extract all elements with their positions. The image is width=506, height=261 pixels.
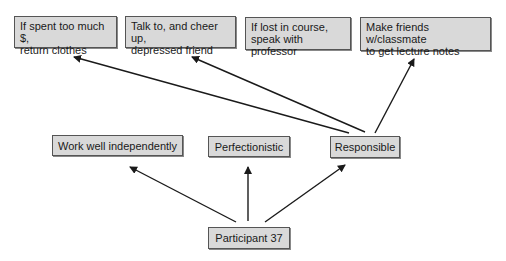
behavior-line-2: speak with professor (251, 33, 345, 57)
behavior-box-cheer-up-friend: Talk to, and cheer up, depressed friend (125, 16, 236, 48)
behavior-box-return-clothes: If spent too much $, return clothes (14, 16, 117, 48)
arrow-responsible-to-b2 (192, 57, 365, 132)
behavior-line-2: depressed friend (131, 44, 230, 56)
arrow-responsible-to-b4 (375, 59, 414, 133)
trait-label: Perfectionistic (215, 141, 283, 153)
trait-label: Responsible (335, 141, 396, 153)
behavior-box-speak-with-professor: If lost in course, speak with professor (245, 17, 351, 50)
trait-box-responsible: Responsible (330, 136, 400, 158)
arrow-participant-to-work-well (130, 167, 236, 222)
behavior-line-2: return clothes (20, 44, 111, 56)
arrow-responsible-to-b1 (74, 57, 349, 133)
behavior-box-lecture-notes: Make friends w/classmate to get lecture … (360, 17, 491, 51)
root-label: Participant 37 (215, 232, 282, 244)
behavior-line-1: Make friends w/classmate (366, 21, 485, 45)
behavior-line-1: If spent too much $, (20, 20, 111, 44)
behavior-line-1: If lost in course, (251, 21, 345, 33)
root-box-participant: Participant 37 (208, 227, 290, 249)
trait-box-perfectionistic: Perfectionistic (208, 136, 290, 157)
arrow-participant-to-responsible (265, 165, 345, 222)
trait-label: Work well independently (58, 140, 177, 152)
trait-box-work-well-independently: Work well independently (52, 135, 183, 156)
behavior-line-1: Talk to, and cheer up, (131, 20, 230, 44)
behavior-line-2: to get lecture notes (366, 45, 485, 57)
